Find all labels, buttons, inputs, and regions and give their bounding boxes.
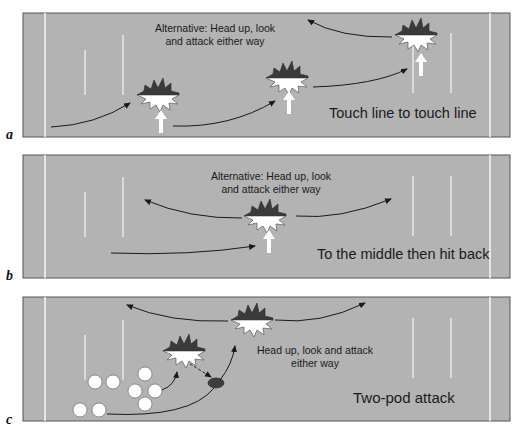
panel-label-c: c <box>6 412 12 428</box>
player <box>88 375 102 389</box>
note-b: Alternative: Head up, look and attack ei… <box>196 170 346 195</box>
player <box>106 375 120 389</box>
caption-a: Touch line to touch line <box>329 105 477 121</box>
player <box>73 403 87 417</box>
panel-label-a: a <box>6 127 13 143</box>
note-a-line1: Alternative: Head up, look <box>140 22 290 35</box>
ball <box>208 378 224 388</box>
caption-c: Two-pod attack <box>353 389 455 406</box>
player <box>138 397 152 411</box>
panel-label-b: b <box>6 268 13 284</box>
note-c-line2: either way <box>255 357 375 370</box>
note-c: Head up, look and attack either way <box>255 344 375 369</box>
player <box>138 367 152 381</box>
player <box>148 384 162 398</box>
caption-b: To the middle then hit back <box>317 246 490 262</box>
player <box>128 384 142 398</box>
note-b-line1: Alternative: Head up, look <box>196 170 346 183</box>
player <box>92 403 106 417</box>
note-a-line2: and attack either way <box>140 35 290 48</box>
note-b-line2: and attack either way <box>196 183 346 196</box>
note-c-line1: Head up, look and attack <box>255 344 375 357</box>
note-a: Alternative: Head up, look and attack ei… <box>140 22 290 47</box>
